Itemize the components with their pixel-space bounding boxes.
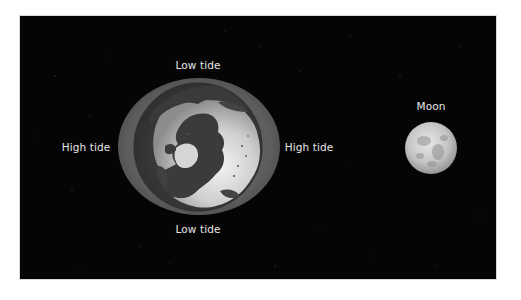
moon <box>405 122 457 174</box>
label-moon: Moon <box>417 100 446 112</box>
label-low-tide-top: Low tide <box>176 59 221 71</box>
label-low-tide-bottom: Low tide <box>176 223 221 235</box>
label-high-tide-left: High tide <box>62 141 111 153</box>
label-high-tide-right: High tide <box>285 141 334 153</box>
diagram-panel: Low tide Low tide High tide High tide Mo… <box>20 16 496 279</box>
